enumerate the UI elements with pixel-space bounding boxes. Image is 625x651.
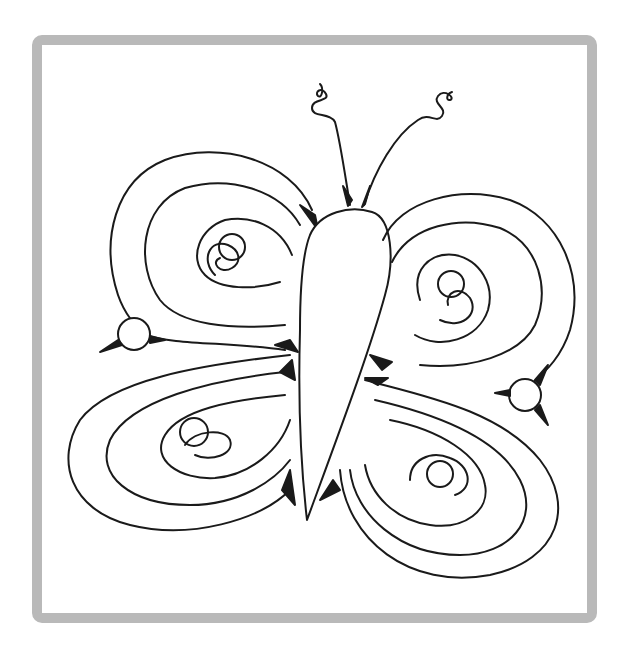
lower-left-wing bbox=[68, 355, 295, 530]
antennae bbox=[312, 84, 452, 207]
upper-right-wing bbox=[365, 194, 574, 385]
butterfly-illustration bbox=[0, 0, 625, 651]
right-wing-knob bbox=[509, 379, 541, 411]
